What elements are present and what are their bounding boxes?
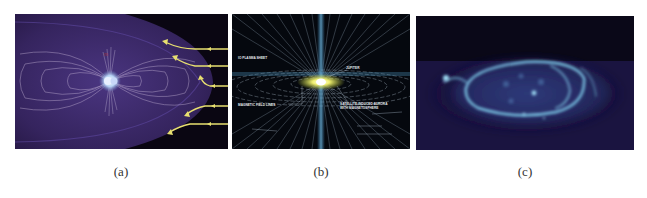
label-magnetic-field-lines: MAGNETIC FIELD LINES — [238, 103, 275, 107]
caption-panel-b: (b) — [301, 164, 341, 180]
caption-panel-c: (c) — [505, 164, 545, 180]
figure-panel-c — [416, 16, 634, 150]
magnetosphere-illustration: m — [15, 14, 228, 149]
label-with-magnetosphere: WITH MAGNETOSPHERE — [340, 106, 378, 110]
caption-panel-a: (a) — [101, 164, 141, 180]
svg-text:m: m — [104, 51, 108, 57]
label-io-plasma-sheet: IO PLASMA SHEET — [238, 56, 267, 60]
jupiter-magnetosphere-diagram: IO PLASMA SHEET JUPITER MAGNETIC FIELD L… — [232, 14, 410, 149]
aurora-uv-image — [416, 16, 634, 150]
figure-panel-b: IO PLASMA SHEET JUPITER MAGNETIC FIELD L… — [232, 14, 410, 149]
label-jupiter: JUPITER — [346, 66, 360, 70]
figure-panel-a: m — [15, 14, 228, 149]
